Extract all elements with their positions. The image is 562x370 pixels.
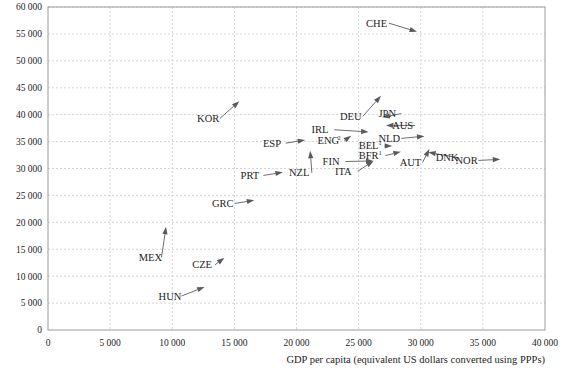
x-tick-label: 40 000 [532, 338, 558, 348]
data-point-label: MEX [139, 252, 163, 263]
data-point-label-superscript: 1 [378, 139, 381, 146]
data-point-label: DEU [340, 111, 362, 122]
y-tick-label: 5 000 [21, 298, 43, 308]
data-point-label: KOR [197, 113, 219, 124]
data-point-label: PRT [241, 170, 260, 181]
y-tick-label: 60 000 [16, 2, 42, 12]
y-tick-label: 50 000 [16, 56, 42, 66]
y-tick-label: 20 000 [16, 218, 42, 228]
data-point-label: NZL [289, 167, 309, 178]
x-tick-label: 15 000 [221, 338, 247, 348]
scatter-chart: 05 00010 00015 00020 00025 00030 00035 0… [0, 0, 562, 370]
data-point-label: AUS [392, 120, 413, 131]
data-point-label: AUT [400, 157, 422, 168]
y-tick-label: 10 000 [16, 272, 42, 282]
data-point-label: BFR [359, 150, 379, 161]
data-point-label: NOR [456, 155, 478, 166]
x-tick-label: 30 000 [408, 338, 434, 348]
data-point-label: CHE [366, 18, 387, 29]
chart-canvas: 05 00010 00015 00020 00025 00030 00035 0… [0, 0, 562, 370]
y-tick-label: 40 000 [16, 110, 42, 120]
x-axis-title: GDP per capita (equivalent US dollars co… [286, 354, 545, 366]
data-point-label: ITA [335, 166, 352, 177]
x-tick-label: 5 000 [99, 338, 121, 348]
x-tick-label: 25 000 [346, 338, 372, 348]
y-axis-tick-labels: 05 00010 00015 00020 00025 00030 00035 0… [16, 2, 42, 335]
data-point-label: ESP [263, 138, 281, 149]
data-point-label-superscript: 1 [378, 149, 381, 156]
x-tick-label: 35 000 [470, 338, 496, 348]
x-tick-label: 0 [46, 338, 51, 348]
data-point-label: JPN [379, 108, 397, 119]
data-point-label: HUN [159, 291, 182, 302]
y-tick-label: 55 000 [16, 29, 42, 39]
data-point-label-superscript: 2 [337, 134, 340, 141]
data-point-label: ENG [318, 135, 340, 146]
y-tick-label: 45 000 [16, 83, 42, 93]
x-axis-tick-labels: 05 00010 00015 00020 00025 00030 00035 0… [46, 338, 559, 348]
y-tick-label: 0 [37, 325, 42, 335]
y-tick-label: 25 000 [16, 191, 42, 201]
y-tick-label: 15 000 [16, 245, 42, 255]
data-point-label: GRC [212, 198, 234, 209]
data-point-label: IRL [311, 124, 328, 135]
x-tick-label: 20 000 [283, 338, 309, 348]
y-tick-label: 30 000 [16, 164, 42, 174]
x-tick-label: 10 000 [159, 338, 185, 348]
data-point-labels: CHEDEUJPNAUSKORIRLENG2NLDBEL1ESPBFR1AUTD… [139, 18, 478, 302]
data-point-label: CZE [192, 259, 212, 270]
data-point-label: NLD [379, 133, 401, 144]
y-tick-label: 35 000 [16, 137, 42, 147]
